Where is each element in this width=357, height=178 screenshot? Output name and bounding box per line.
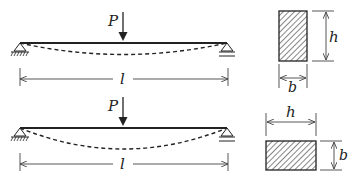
bottom-load-arrow-icon <box>119 97 128 126</box>
bottom-cross-section: h b <box>266 103 348 170</box>
bottom-deflection-curve <box>20 128 227 149</box>
beam-diagram: P l h b <box>0 0 357 178</box>
top-section-h-label: h <box>329 28 339 46</box>
top-span-label: l <box>120 70 125 88</box>
top-cross-section: h b <box>279 11 339 95</box>
top-load-arrow-icon <box>119 12 128 41</box>
top-section-rect <box>279 11 307 61</box>
bottom-pin-support-icon <box>11 128 29 141</box>
top-load-label: P <box>107 12 119 30</box>
bottom-section-h-label: h <box>286 103 296 121</box>
bottom-section-rect <box>266 141 316 170</box>
top-section-b-label: b <box>288 79 297 95</box>
bottom-load-label: P <box>107 97 119 115</box>
bottom-span-label: l <box>120 155 125 173</box>
top-pin-support-icon <box>11 43 29 56</box>
top-roller-support-icon <box>219 43 235 56</box>
top-deflection-curve <box>20 43 227 55</box>
bottom-beam-group: P l <box>11 97 235 173</box>
bottom-section-b-label: b <box>339 147 348 163</box>
top-beam-group: P l <box>11 12 235 88</box>
